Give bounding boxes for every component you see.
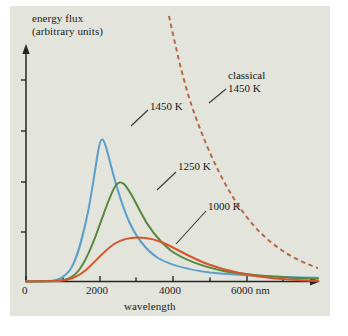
curve-label-1450k: 1450 K [150, 100, 183, 113]
curve-1000k [26, 238, 318, 282]
x-tick-label-2000: 2000 [86, 284, 108, 296]
axis-lines [22, 44, 320, 285]
curve-1250k [26, 182, 318, 281]
x-axis-label: wavelength [124, 300, 176, 313]
x-tick-label-0: 0 [22, 284, 28, 296]
leader-line-classical [209, 89, 226, 103]
leader-line-1450k [131, 110, 148, 126]
curve-label-classical: classical 1450 K [228, 69, 265, 95]
y-axis-label: energy flux (arbitrary units) [32, 12, 103, 38]
curve-classical-1450k [169, 16, 318, 268]
curve-label-1250k: 1250 K [178, 160, 211, 173]
leader-line-1250k [157, 172, 176, 190]
curve-label-classical-line1: classical [228, 69, 265, 82]
x-tick-label-6000: 6000 nm [231, 284, 270, 296]
y-axis-label-line1: energy flux [32, 12, 103, 25]
figure-page: energy flux (arbitrary units) wavelength… [0, 0, 348, 336]
curve-label-1000k: 1000 K [208, 200, 241, 213]
leader-line-1000k [176, 211, 206, 244]
curve-1450k [26, 140, 318, 282]
curve-label-classical-line2: 1450 K [228, 82, 265, 95]
y-axis-label-line2: (arbitrary units) [32, 25, 103, 38]
x-tick-label-4000: 4000 [159, 284, 181, 296]
